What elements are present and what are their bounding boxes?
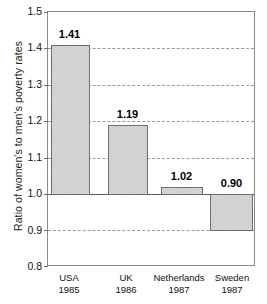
x-category-uk: UK 1986 <box>104 272 148 295</box>
bar-sweden[interactable] <box>210 194 253 231</box>
x-category-sweden: Sweden 1987 <box>209 272 255 295</box>
y-tick-label-1: 1.5 <box>14 6 42 17</box>
x-category-netherlands: Netherlands 1987 <box>148 272 210 295</box>
value-label-netherlands: 1.02 <box>159 171 204 182</box>
value-label-uk: 1.19 <box>105 109 150 120</box>
bar-chart-figure: Ratio of women's to men's poverty rates … <box>0 0 267 304</box>
x-category-usa: USA 1985 <box>47 272 91 295</box>
y-tick-label-5: 1.1 <box>14 152 42 163</box>
x-category-name: Sweden <box>209 272 255 284</box>
x-category-year: 1987 <box>148 284 210 296</box>
value-label-sweden: 0.90 <box>209 178 254 189</box>
bar-usa[interactable] <box>51 45 90 195</box>
x-category-year: 1985 <box>47 284 91 296</box>
value-label-usa: 1.41 <box>47 29 92 40</box>
x-category-name: USA <box>47 272 91 284</box>
x-category-name: Netherlands <box>148 272 210 284</box>
bar-uk[interactable] <box>108 125 148 195</box>
x-category-year: 1986 <box>104 284 148 296</box>
x-category-year: 1987 <box>209 284 255 296</box>
y-tick-label-4: 1.2 <box>14 115 42 126</box>
y-tick-label-8: 0.8 <box>14 261 42 272</box>
y-tick-label-6: 1.0 <box>14 188 42 199</box>
y-tick-mark <box>44 266 48 267</box>
y-tick-mark <box>44 12 48 13</box>
plot-area <box>47 11 255 266</box>
y-tick-label-7: 0.9 <box>14 225 42 236</box>
bar-netherlands[interactable] <box>161 187 203 195</box>
y-tick-label-2: 1.4 <box>14 42 42 53</box>
x-category-name: UK <box>104 272 148 284</box>
y-tick-label-3: 1.3 <box>14 79 42 90</box>
